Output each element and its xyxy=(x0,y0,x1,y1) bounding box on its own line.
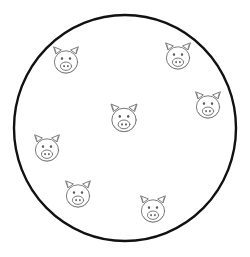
pig-nostril-left xyxy=(150,214,152,216)
pig-nostril-left xyxy=(121,123,123,125)
pig-bottom-left[interactable] xyxy=(66,181,91,207)
pig-eye-right xyxy=(127,115,129,118)
pig-snout xyxy=(41,150,52,158)
pig-top-left[interactable] xyxy=(54,47,79,73)
pig-snout xyxy=(72,196,83,204)
pig-eye-right xyxy=(81,191,83,194)
pig-left[interactable] xyxy=(35,135,60,161)
pig-nostril-right xyxy=(209,110,211,112)
pig-eye-left xyxy=(119,115,121,118)
pig-snout xyxy=(118,120,130,129)
pig-right[interactable] xyxy=(196,92,221,118)
pig-eye-left xyxy=(61,57,63,60)
pig-nostril-right xyxy=(79,199,81,201)
pig-snout xyxy=(147,211,158,219)
pig-eye-left xyxy=(148,206,150,209)
pig-eye-left xyxy=(73,191,75,194)
pig-snout xyxy=(172,58,183,66)
pig-snout xyxy=(60,62,71,70)
pig-eye-right xyxy=(69,57,71,60)
pig-nostril-left xyxy=(175,61,177,63)
pig-snout xyxy=(202,107,213,115)
pig-nostril-right xyxy=(48,153,50,155)
pig-eye-left xyxy=(203,102,205,105)
illustration-canvas xyxy=(0,0,250,257)
pig-nostril-right xyxy=(179,61,181,63)
pig-eye-left xyxy=(42,145,44,148)
pig-center[interactable] xyxy=(111,104,137,132)
pig-nostril-right xyxy=(125,123,127,125)
pig-eye-right xyxy=(156,206,158,209)
illustration-svg xyxy=(0,0,250,257)
pig-nostril-left xyxy=(63,65,65,67)
pig-eye-left xyxy=(173,53,175,56)
pig-nostril-left xyxy=(75,199,77,201)
pig-nostril-right xyxy=(154,214,156,216)
pig-nostril-left xyxy=(44,153,46,155)
pig-nostril-left xyxy=(205,110,207,112)
pig-bottom-right[interactable] xyxy=(141,196,166,222)
pig-nostril-right xyxy=(67,65,69,67)
pig-top-right[interactable] xyxy=(166,43,191,69)
pig-eye-right xyxy=(181,53,183,56)
pig-eye-right xyxy=(211,102,213,105)
pig-eye-right xyxy=(50,145,52,148)
